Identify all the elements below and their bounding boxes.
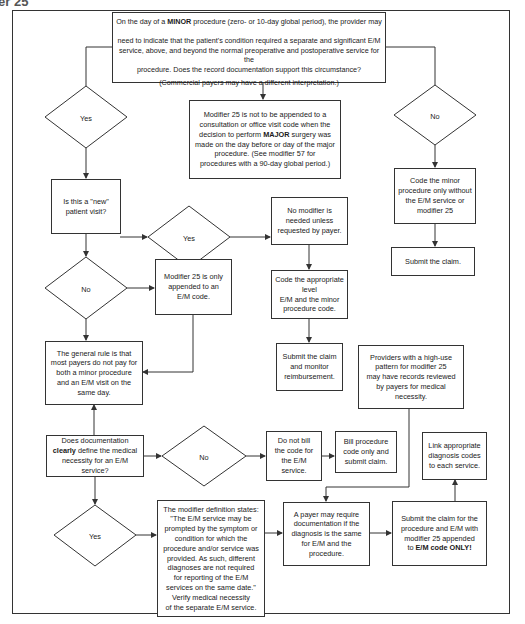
do-not-bill-text: Do not bill the code for the E/M service… xyxy=(275,436,314,475)
general-rule-box: The general rule is that most payers do … xyxy=(45,341,143,405)
submit-claim-text: Submit the claim. xyxy=(405,257,461,267)
no-modifier-text: No modifier is needed unless requested b… xyxy=(277,206,341,235)
modifier-definition-box: The modifier definition states: "The E/M… xyxy=(157,500,265,617)
code-appropriate-box: Code the appropriate level E/M and the m… xyxy=(271,270,348,319)
decision-yes-5-label: Yes xyxy=(89,532,101,541)
modifier-definition-text: The modifier definition states: "The E/M… xyxy=(163,505,259,613)
code-minor-only-box: Code the minor procedure only without th… xyxy=(394,168,476,224)
submit-final-bold: E/M code ONLY! xyxy=(416,543,472,552)
payer-require-box: A payer may require documentation if the… xyxy=(283,502,370,566)
decision-no-4-label: No xyxy=(199,453,208,462)
high-use-box: Providers with a high-use pattern for mo… xyxy=(358,345,464,409)
high-use-text: Providers with a high-use pattern for mo… xyxy=(366,353,455,402)
submit-monitor-box: Submit the claim and monitor reimburseme… xyxy=(276,343,343,391)
decision-yes-2-label: Yes xyxy=(183,234,195,243)
submit-final-box: Submit the claim for the procedure and E… xyxy=(392,501,487,566)
code-appropriate-text: Code the appropriate level E/M and the m… xyxy=(275,275,344,314)
decision-no-3-label: No xyxy=(81,285,90,294)
modifier-only-em-box: Modifier 25 is only appended to an E/M c… xyxy=(155,259,232,315)
start-text-minor: MINOR xyxy=(167,17,191,26)
documentation-pre: Does documentation xyxy=(62,436,129,445)
do-not-bill-box: Do not bill the code for the E/M service… xyxy=(266,431,322,481)
payer-require-text: A payer may require documentation if the… xyxy=(291,510,361,559)
submit-monitor-text: Submit the claim and monitor reimburseme… xyxy=(283,352,337,381)
bill-procedure-text: Bill procedure code only and submit clai… xyxy=(343,437,388,466)
link-diagnosis-box: Link appropriate diagnosis codes to each… xyxy=(422,432,487,480)
modifier-only-em-text: Modifier 25 is only appended to an E/M c… xyxy=(164,272,223,301)
decision-yes-1-label: Yes xyxy=(80,114,92,123)
submit-claim-box: Submit the claim. xyxy=(391,247,475,276)
start-note: (Commercial payers may have a different … xyxy=(159,78,339,88)
code-minor-only-text: Code the minor procedure only without th… xyxy=(398,176,471,215)
new-patient-text: Is this a "new" patient visit? xyxy=(63,197,109,217)
bill-procedure-box: Bill procedure code only and submit clai… xyxy=(335,431,397,473)
decision-no-1-label: No xyxy=(430,112,439,121)
start-question-box: On the day of a MINOR procedure (zero- o… xyxy=(112,12,386,83)
no-modifier-box: No modifier is needed unless requested b… xyxy=(271,197,348,245)
link-diagnosis-text: Link appropriate diagnosis codes to each… xyxy=(428,441,480,470)
start-text-rest: need to indicate that the patient's cond… xyxy=(117,36,380,74)
new-patient-question-box: Is this a "new" patient visit? xyxy=(51,179,121,234)
start-text-pre: On the day of a xyxy=(116,17,167,26)
major-surgery-note-box: Modifier 25 is not to be appended to a c… xyxy=(189,100,341,179)
documentation-question-box: Does documentation clearly define the me… xyxy=(46,435,144,477)
start-text-post: procedure (zero- or 10-day global period… xyxy=(191,17,382,26)
documentation-bold: clearly xyxy=(53,446,76,455)
general-rule-text: The general rule is that most payers do … xyxy=(51,349,137,398)
major-note-bold: MAJOR xyxy=(263,130,289,139)
